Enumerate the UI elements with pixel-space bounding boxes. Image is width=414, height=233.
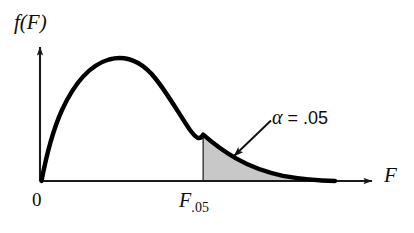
origin-label: 0 [32, 190, 42, 209]
alpha-value: = .05 [288, 108, 329, 128]
alpha-annotation-arrow [234, 121, 271, 157]
x-axis-label: F [384, 165, 397, 186]
alpha-symbol: α [272, 106, 283, 128]
critical-value-label: F.05 [179, 190, 209, 215]
alpha-annotation-label: α = .05 [272, 107, 328, 127]
f-distribution-figure: f(F) F 0 F.05 α = .05 [0, 0, 414, 233]
critical-value-base: F [179, 189, 191, 211]
y-axis-label: f(F) [14, 12, 47, 33]
critical-value-subscript: .05 [191, 200, 209, 215]
